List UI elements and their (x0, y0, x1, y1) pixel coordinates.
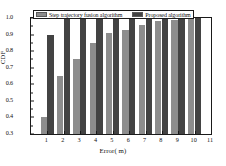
bar (129, 18, 135, 134)
y-minor-tick (31, 125, 33, 126)
bar (155, 21, 161, 135)
legend-label-step-trajectory-fusion-algorithm: Step trajectory fusion algorithm (49, 12, 122, 18)
x-tick-label: 8 (153, 137, 169, 143)
y-minor-tick (31, 109, 33, 110)
y-tick-mark (31, 34, 34, 35)
x-tick-label: 3 (71, 137, 87, 143)
bar (41, 117, 47, 134)
bar (122, 30, 128, 134)
y-tick-mark (31, 51, 34, 52)
x-tick-label: 2 (55, 137, 71, 143)
x-tick-mark (129, 131, 130, 134)
x-tick-label: 10 (186, 137, 202, 143)
y-tick-mark (31, 117, 34, 118)
bar (47, 35, 53, 134)
bar-group (187, 18, 201, 134)
x-tick-mark (64, 131, 65, 134)
bar-group (40, 18, 54, 134)
bar (178, 18, 184, 134)
x-tick-mark (96, 131, 97, 134)
y-minor-tick (31, 76, 33, 77)
y-tick-mark (31, 134, 34, 135)
bar-group (138, 18, 152, 134)
y-tick-label: 0.5 (0, 97, 13, 103)
bar-group (122, 18, 136, 134)
legend-swatch-proposed-algorithm (132, 12, 143, 17)
x-tick-mark (178, 131, 179, 134)
bar (146, 18, 152, 134)
bar-group (106, 18, 120, 134)
x-tick-label: 1 (38, 137, 54, 143)
x-tick-mark (162, 131, 163, 134)
x-tick-mark (211, 131, 212, 134)
bar (96, 18, 102, 134)
bar-group (155, 18, 169, 134)
bar (80, 18, 86, 134)
y-tick-label: 0.4 (0, 113, 13, 119)
plot-frame (30, 17, 212, 135)
plot-area (31, 18, 211, 134)
bar (90, 43, 96, 134)
cdf-bar-chart-figure: CDF 0.30.40.50.60.70.80.91.0 12345678910… (0, 0, 226, 166)
bar-group (171, 18, 185, 134)
bar (106, 33, 112, 134)
bar (57, 76, 63, 134)
y-tick-mark (31, 67, 34, 68)
bar (73, 59, 79, 134)
legend-entry-1: Proposed algorithm (132, 12, 190, 18)
x-tick-mark (113, 131, 114, 134)
x-tick-mark (195, 131, 196, 134)
legend-label-proposed-algorithm: Proposed algorithm (145, 12, 190, 18)
bar (139, 25, 145, 134)
y-minor-tick (31, 59, 33, 60)
y-tick-label: 0.7 (0, 64, 13, 70)
x-tick-label: 6 (120, 137, 136, 143)
bar (195, 18, 201, 134)
legend-swatch-step-trajectory-fusion-algorithm (36, 12, 47, 17)
y-tick-label: 0.6 (0, 80, 13, 86)
legend-entry-0: Step trajectory fusion algorithm (36, 12, 122, 18)
bar-group (57, 18, 71, 134)
x-tick-label: 4 (87, 137, 103, 143)
x-axis-label: Error( m) (0, 147, 226, 154)
bar-group (73, 18, 87, 134)
y-tick-mark (31, 100, 34, 101)
y-tick-label: 1.0 (0, 14, 13, 20)
bar-group (89, 18, 103, 134)
y-tick-mark (31, 84, 34, 85)
y-minor-tick (31, 92, 33, 93)
chart-legend: Step trajectory fusion algorithm Propose… (33, 10, 194, 19)
y-tick-label: 0.3 (0, 130, 13, 136)
y-tick-label: 0.8 (0, 47, 13, 53)
x-tick-label: 5 (104, 137, 120, 143)
bar (171, 20, 177, 134)
bar (188, 18, 194, 134)
x-tick-mark (80, 131, 81, 134)
y-minor-tick (31, 26, 33, 27)
x-tick-label: 9 (169, 137, 185, 143)
bar (64, 18, 70, 134)
x-tick-mark (146, 131, 147, 134)
x-tick-mark (47, 131, 48, 134)
y-minor-tick (31, 42, 33, 43)
x-tick-label: 7 (137, 137, 153, 143)
y-tick-label: 0.9 (0, 30, 13, 36)
bar (162, 18, 168, 134)
x-tick-label: 11 (202, 137, 218, 143)
bar (113, 18, 119, 134)
